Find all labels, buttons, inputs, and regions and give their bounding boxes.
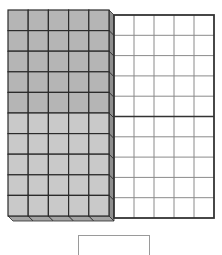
unit-cube: [69, 72, 89, 93]
cube-bottom-face: [89, 216, 114, 221]
unit-cube: [28, 72, 48, 93]
unit-cube: [8, 31, 28, 52]
unit-cube: [69, 113, 89, 134]
unit-cube: [28, 134, 48, 155]
unit-cube: [89, 113, 109, 134]
unit-cube: [28, 10, 48, 31]
unit-cube: [48, 31, 68, 52]
unit-cube: [89, 72, 109, 93]
answer-box[interactable]: [78, 235, 150, 255]
unit-cube: [28, 175, 48, 196]
flat-grid: [114, 15, 214, 218]
unit-cube: [48, 154, 68, 175]
unit-cube: [28, 51, 48, 72]
unit-cube: [48, 92, 68, 113]
unit-cube: [28, 195, 48, 216]
unit-cube: [8, 10, 28, 31]
unit-cube: [28, 113, 48, 134]
unit-cube: [8, 154, 28, 175]
unit-cube: [8, 195, 28, 216]
unit-cube: [8, 72, 28, 93]
unit-cube: [48, 72, 68, 93]
unit-cube: [28, 31, 48, 52]
unit-cube: [89, 154, 109, 175]
unit-cube: [8, 134, 28, 155]
unit-cube: [69, 31, 89, 52]
unit-cube: [89, 175, 109, 196]
unit-cube: [69, 175, 89, 196]
unit-cube: [69, 10, 89, 31]
unit-cube: [8, 92, 28, 113]
unit-cube: [69, 195, 89, 216]
unit-cube: [89, 134, 109, 155]
unit-cube: [8, 175, 28, 196]
unit-cube: [69, 154, 89, 175]
unit-cube: [48, 175, 68, 196]
unit-cube: [89, 195, 109, 216]
unit-cube: [8, 113, 28, 134]
unit-cube: [89, 92, 109, 113]
unit-cube: [28, 92, 48, 113]
unit-cube: [28, 154, 48, 175]
cube-stack: [8, 10, 114, 221]
unit-cube: [69, 51, 89, 72]
unit-cube: [48, 195, 68, 216]
unit-cube: [89, 51, 109, 72]
unit-cube: [48, 113, 68, 134]
unit-cube: [48, 51, 68, 72]
unit-cube: [8, 51, 28, 72]
unit-cube: [48, 134, 68, 155]
unit-cube: [89, 10, 109, 31]
unit-cube: [69, 134, 89, 155]
unit-cube: [89, 31, 109, 52]
unit-cube: [69, 92, 89, 113]
unit-cube: [48, 10, 68, 31]
